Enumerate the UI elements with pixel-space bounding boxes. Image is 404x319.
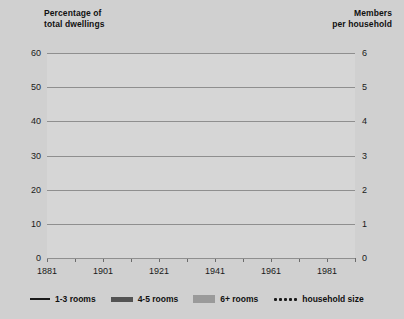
legend-item-1-3-rooms[interactable]: 1-3 rooms bbox=[30, 294, 96, 304]
gridline bbox=[47, 121, 355, 122]
x-axis-tick-1941: 1941 bbox=[195, 266, 235, 276]
legend-item-6-rooms[interactable]: 6+ rooms bbox=[193, 294, 258, 304]
right-axis-tick-1: 1 bbox=[362, 219, 386, 229]
gridline bbox=[47, 258, 355, 259]
gridline bbox=[47, 53, 355, 54]
right-axis-tick-6: 6 bbox=[362, 48, 386, 58]
x-axis-tick-mark bbox=[355, 258, 356, 262]
right-axis-title: Members per household bbox=[332, 8, 392, 29]
chart-legend: 1-3 rooms4-5 rooms6+ roomshousehold size bbox=[30, 291, 390, 307]
gridline bbox=[47, 224, 355, 225]
gridline bbox=[47, 190, 355, 191]
left-axis-tick-60: 60 bbox=[17, 48, 41, 58]
right-axis-tick-3: 3 bbox=[362, 151, 386, 161]
left-axis-tick-20: 20 bbox=[17, 185, 41, 195]
right-axis-tick-2: 2 bbox=[362, 185, 386, 195]
right-axis-tick-4: 4 bbox=[362, 116, 386, 126]
right-axis-tick-0: 0 bbox=[362, 253, 386, 263]
legend-label: 6+ rooms bbox=[220, 294, 258, 304]
dotted-line-swatch bbox=[273, 298, 297, 301]
legend-label: household size bbox=[302, 294, 363, 304]
right-axis-tick-5: 5 bbox=[362, 82, 386, 92]
x-axis-tick-1901: 1901 bbox=[83, 266, 123, 276]
thick-line-swatch bbox=[111, 297, 133, 302]
left-axis-tick-40: 40 bbox=[17, 116, 41, 126]
x-axis-tick-1921: 1921 bbox=[139, 266, 179, 276]
thin-line-swatch bbox=[30, 298, 50, 300]
legend-item-4-5-rooms[interactable]: 4-5 rooms bbox=[111, 294, 179, 304]
left-axis-tick-0: 0 bbox=[17, 253, 41, 263]
legend-label: 4-5 rooms bbox=[138, 294, 179, 304]
gray-band-swatch bbox=[193, 295, 215, 303]
left-axis-tick-50: 50 bbox=[17, 82, 41, 92]
plot-area bbox=[47, 53, 355, 258]
gridline bbox=[47, 156, 355, 157]
chart-figure: Percentage of total dwellings Members pe… bbox=[0, 0, 404, 319]
x-axis-tick-1961: 1961 bbox=[251, 266, 291, 276]
x-axis-tick-1981: 1981 bbox=[307, 266, 347, 276]
left-axis-tick-10: 10 bbox=[17, 219, 41, 229]
gridline bbox=[47, 87, 355, 88]
x-axis-tick-1881: 1881 bbox=[27, 266, 67, 276]
left-axis-title: Percentage of total dwellings bbox=[44, 8, 105, 29]
legend-label: 1-3 rooms bbox=[55, 294, 96, 304]
left-axis-tick-30: 30 bbox=[17, 151, 41, 161]
legend-item-household-size[interactable]: household size bbox=[273, 294, 363, 304]
